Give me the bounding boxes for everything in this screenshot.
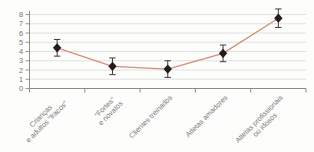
x-category-label: Criançase adultos “fracos” (18, 93, 70, 145)
y-tick-label: 2 (19, 66, 23, 75)
chart-canvas: 012345678Criançase adultos “fracos”“Fort… (0, 0, 314, 152)
data-point-diamond (219, 49, 227, 58)
y-tick-label: 4 (19, 47, 23, 56)
data-point-diamond (274, 14, 282, 23)
y-tick-label: 1 (19, 75, 23, 84)
x-category-label: Atletas amadores (184, 93, 230, 139)
x-category-label-line: Atletas profissionais (233, 93, 285, 145)
y-tick-label: 3 (19, 56, 23, 65)
y-tick-label: 0 (19, 84, 23, 93)
x-category-label: “Fortes”e novatos (90, 93, 124, 127)
x-category-label-line: Atletas amadores (184, 93, 230, 139)
y-tick-label: 6 (19, 29, 23, 38)
x-category-label: Clientes treinados (127, 93, 174, 140)
data-point-diamond (108, 62, 116, 71)
data-point-diamond (164, 64, 172, 73)
error-bar-line-chart: 012345678Criançase adultos “fracos”“Fort… (0, 0, 314, 152)
y-tick-label: 5 (19, 38, 23, 47)
y-tick-label: 8 (19, 10, 23, 19)
x-category-label: Atletas profissionaisou idosos (233, 93, 291, 151)
data-point-diamond (53, 43, 61, 52)
x-category-label-line: Clientes treinados (127, 93, 174, 140)
y-tick-label: 7 (19, 19, 23, 28)
